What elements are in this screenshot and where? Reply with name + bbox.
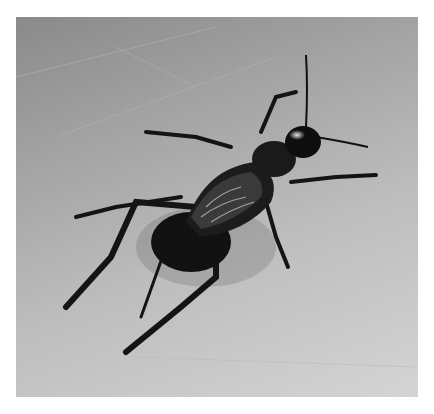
cricket-photo <box>16 17 418 397</box>
cricket-illustration <box>16 17 418 397</box>
